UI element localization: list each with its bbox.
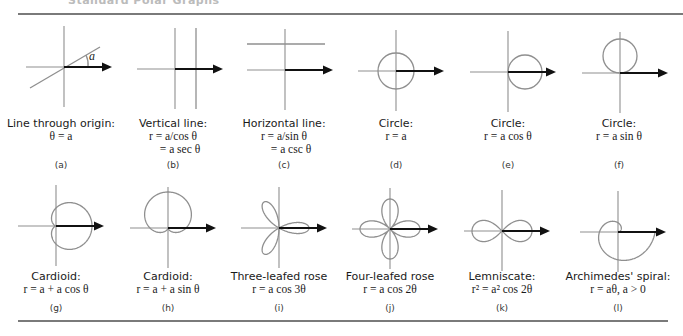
panel-letter: (a) xyxy=(5,160,117,170)
panel-d-label: Circle:r = a xyxy=(340,117,452,143)
panel-h-label: Cardioid:r = a + a sin θ xyxy=(112,270,224,296)
panel-caption: Vertical line: xyxy=(117,117,229,130)
panel-formula: r = a + a cos θ xyxy=(0,283,112,296)
panel-j-label: Four-leafed roser = a cos 2θ xyxy=(334,270,446,296)
panel-letter: (c) xyxy=(228,160,340,170)
arrow-icon xyxy=(206,224,216,233)
arrow-icon xyxy=(94,222,104,231)
panel-letter: (j) xyxy=(334,303,446,313)
panel-formula: = a sec θ xyxy=(117,143,229,156)
panel-formula: r = a/cos θ xyxy=(117,130,229,143)
panel-l-label: Archimedes' spiral:r = aθ, a > 0 xyxy=(562,270,674,296)
panel-caption: Archimedes' spiral: xyxy=(562,270,674,283)
arrow-icon xyxy=(434,67,444,76)
panel-letter: (d) xyxy=(340,160,452,170)
panel-i-label: Three-leafed roser = a cos 3θ xyxy=(223,270,335,296)
panel-f-label: Circle:r = a sin θ xyxy=(563,117,675,143)
angle-label: a xyxy=(89,49,95,63)
panel-letter: (k) xyxy=(446,303,558,313)
arrow-icon xyxy=(546,68,556,77)
panel-formula: r = a cos 3θ xyxy=(223,283,335,296)
panel-caption: Circle: xyxy=(563,117,675,130)
panel-caption: Circle: xyxy=(452,117,564,130)
arrow-icon xyxy=(656,228,666,237)
panel-caption: Cardioid: xyxy=(112,270,224,283)
panel-caption: Three-leafed rose xyxy=(223,270,335,283)
panel-formula: r = a + a sin θ xyxy=(112,283,224,296)
panel-letter: (l) xyxy=(562,303,674,313)
arrow-icon xyxy=(540,227,550,236)
panel-caption: Horizontal line: xyxy=(228,117,340,130)
panel-letter: (h) xyxy=(112,303,224,313)
panel-caption: Cardioid: xyxy=(0,270,112,283)
panel-caption: Four-leafed rose xyxy=(334,270,446,283)
panel-caption: Lemniscate: xyxy=(446,270,558,283)
panel-b-label: Vertical line:r = a/cos θ= a sec θ xyxy=(117,117,229,156)
panel-letter: (i) xyxy=(223,303,335,313)
panel-letter: (e) xyxy=(452,160,564,170)
panel-formula: θ = a xyxy=(5,130,117,143)
panel-a-label: Line through origin:θ = a xyxy=(5,117,117,143)
arrow-icon xyxy=(658,69,668,78)
panel-letter: (f) xyxy=(563,160,675,170)
panel-e-label: Circle:r = a cos θ xyxy=(452,117,564,143)
panel-formula: r² = a² cos 2θ xyxy=(446,283,558,296)
panel-formula: r = a sin θ xyxy=(563,130,675,143)
panel-formula: r = aθ, a > 0 xyxy=(562,283,674,296)
arrow-icon xyxy=(213,65,223,74)
arrow-icon xyxy=(323,66,333,75)
panel-k-label: Lemniscate:r² = a² cos 2θ xyxy=(446,270,558,296)
panel-formula: = a csc θ xyxy=(228,143,340,156)
panel-g-label: Cardioid:r = a + a cos θ xyxy=(0,270,112,296)
panel-letter: (g) xyxy=(0,303,112,313)
panel-letter: (b) xyxy=(117,160,229,170)
panel-c-label: Horizontal line:r = a/sin θ= a csc θ xyxy=(228,117,340,156)
panel-caption: Line through origin: xyxy=(5,117,117,130)
panel-formula: r = a xyxy=(340,130,452,143)
angle-arc xyxy=(86,55,88,67)
spiral-curve xyxy=(599,221,655,260)
panel-formula: r = a cos θ xyxy=(452,130,564,143)
panel-caption: Circle: xyxy=(340,117,452,130)
arrow-icon xyxy=(102,63,112,72)
panel-formula: r = a/sin θ xyxy=(228,130,340,143)
arrow-icon xyxy=(317,224,327,233)
arrow-icon xyxy=(428,225,438,234)
panel-formula: r = a cos 2θ xyxy=(334,283,446,296)
